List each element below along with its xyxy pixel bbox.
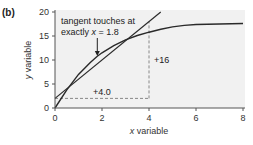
y-axis-label: y variable — [23, 41, 33, 81]
x-tick-label: 6 — [193, 113, 198, 123]
y-tick-label: 15 — [39, 31, 49, 41]
run-label: +4.0 — [93, 87, 111, 97]
x-tick-label: 4 — [146, 113, 151, 123]
y-tick-label: 10 — [39, 55, 49, 65]
x-tick-label: 0 — [52, 113, 57, 123]
chart: 0246805101520x variabley variable tangen… — [0, 0, 253, 145]
rise-label: +16 — [154, 55, 169, 65]
x-axis-label: x variable — [129, 126, 169, 136]
tangent-annotation-line1: tangent touches at — [61, 16, 136, 26]
x-tick-label: 8 — [240, 113, 245, 123]
y-tick-label: 0 — [44, 103, 49, 113]
tangent-annotation-line2: exactly x = 1.8 — [61, 27, 119, 37]
y-tick-label: 5 — [44, 79, 49, 89]
y-tick-label: 20 — [39, 7, 49, 17]
x-tick-label: 2 — [99, 113, 104, 123]
